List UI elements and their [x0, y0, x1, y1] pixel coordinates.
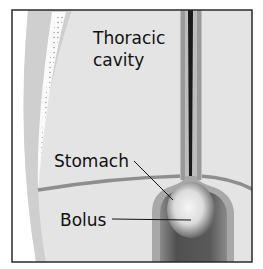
label-bolus: Bolus — [60, 210, 107, 230]
esophagus-stomach-diagram: Thoracic cavity Stomach Bolus — [0, 0, 263, 269]
bolus-mass — [167, 182, 215, 238]
esophagus-wall-right — [197, 10, 201, 180]
label-cavity: cavity — [93, 50, 144, 70]
label-thoracic: Thoracic — [92, 28, 165, 48]
label-stomach: Stomach — [54, 151, 129, 171]
esophagus-wall-left — [181, 10, 185, 180]
